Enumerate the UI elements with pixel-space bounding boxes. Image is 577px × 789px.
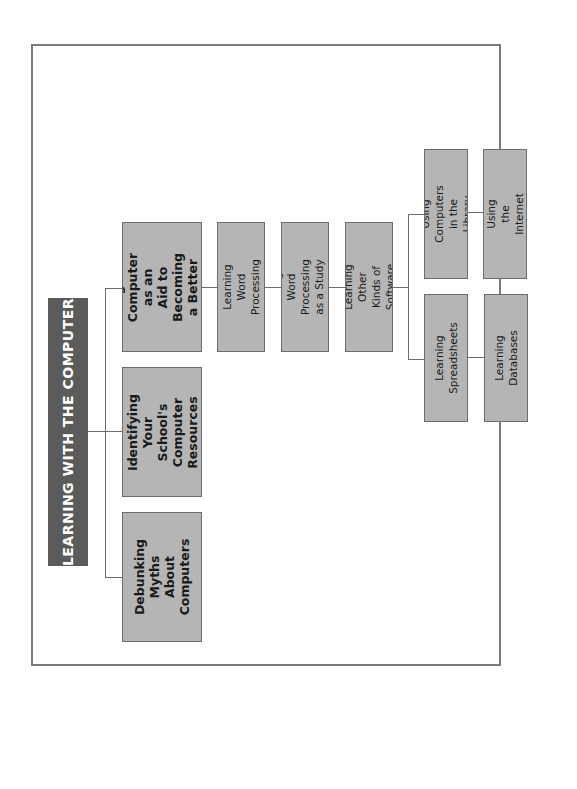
connector	[105, 288, 106, 577]
node-identifying-resources: Identifying Your School's Computer Resou…	[122, 367, 202, 497]
connector	[393, 287, 408, 288]
node-learning-word-processing: Learning Word Processing	[217, 222, 265, 352]
connector	[105, 577, 122, 578]
connector	[468, 212, 483, 213]
node-word-processing-study-aid: Using Word Processing as a Study Aid	[281, 222, 329, 352]
node-other-software: Learning Other Kinds of Software	[345, 222, 393, 352]
node-debunking-myths: Debunking Myths About Computers	[122, 512, 202, 642]
root-label: LEARNING WITH THE COMPUTER	[61, 298, 75, 566]
connector	[408, 214, 424, 215]
node-using-internet: Using the Internet	[483, 149, 527, 279]
root-node: LEARNING WITH THE COMPUTER	[48, 298, 88, 566]
connector	[329, 287, 345, 288]
connector	[105, 431, 122, 432]
node-using-computer-aid: Using Your Computer as an Aid to Becomin…	[122, 222, 202, 352]
connector	[105, 288, 122, 289]
node-learning-databases: Learning Databases	[484, 294, 528, 422]
connector	[202, 287, 217, 288]
connector	[265, 287, 281, 288]
node-computers-library: Using Computers in the Library	[424, 149, 468, 279]
connector	[468, 357, 484, 358]
node-learning-spreadsheets: Learning Spreadsheets	[424, 294, 468, 422]
connector	[408, 359, 424, 360]
connector	[408, 214, 409, 359]
connector	[88, 431, 105, 432]
